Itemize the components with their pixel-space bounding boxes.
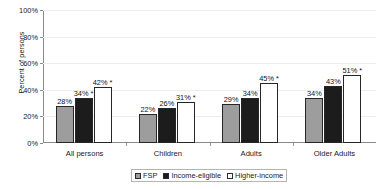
legend-label-fsp: FSP — [143, 171, 157, 180]
legend-swatch-income-eligible — [163, 173, 169, 179]
legend-item-fsp: FSP — [135, 171, 157, 180]
bar-value-label: 42% * — [93, 78, 113, 87]
x-axis-tick-mark — [126, 143, 127, 146]
bar-value-label: 34% * — [74, 89, 94, 98]
y-tick-label: 40% — [23, 85, 38, 94]
legend-label-income-eligible: Income-eligible — [171, 171, 221, 180]
bar-value-label: 45% * — [259, 74, 279, 83]
bar: 26% — [158, 108, 176, 143]
bar: 42% * — [94, 87, 112, 143]
x-axis-tick-mark — [210, 143, 211, 146]
y-tick-mark — [40, 143, 43, 144]
x-axis-category-label: Adults — [241, 149, 262, 158]
bar: 34% — [241, 98, 259, 143]
plot-area: 0%20%40%60%80%100% 28%34% *42% *All pers… — [43, 10, 376, 143]
bar-group: 29%34%45% *Adults — [222, 10, 280, 143]
bar-value-label: 34% — [243, 89, 258, 98]
y-tick-label: 80% — [23, 32, 38, 41]
x-axis-category-label: All persons — [66, 149, 104, 158]
bar-value-label: 29% — [224, 95, 239, 104]
bar: 22% — [139, 114, 157, 143]
bar: 34% * — [75, 98, 93, 143]
legend-item-higher-income: Higher-income — [227, 171, 283, 180]
x-axis-category-label: Children — [154, 149, 182, 158]
x-axis-category-label: Older Adults — [314, 149, 355, 158]
legend-item-income-eligible: Income-eligible — [163, 171, 221, 180]
y-tick-label: 60% — [23, 59, 38, 68]
bar-chart: Percent of persons 0%20%40%60%80%100% 28… — [0, 0, 385, 189]
bar: 51% * — [343, 75, 361, 143]
x-axis-tick-mark — [293, 143, 294, 146]
bar-group: 28%34% *42% *All persons — [56, 10, 114, 143]
legend-swatch-fsp — [135, 173, 141, 179]
bar-value-label: 43% — [326, 77, 341, 86]
bar: 43% — [324, 86, 342, 143]
bar: 29% — [222, 104, 240, 143]
bar-group: 34%43%51% *Older Adults — [305, 10, 363, 143]
y-tick-label: 100% — [19, 6, 38, 15]
legend-swatch-higher-income — [227, 173, 233, 179]
bar: 45% * — [260, 83, 278, 143]
bar-value-label: 51% * — [343, 66, 363, 75]
legend-label-higher-income: Higher-income — [235, 171, 283, 180]
y-tick-mark — [40, 37, 43, 38]
y-axis-line — [43, 10, 44, 143]
bar: 28% — [56, 106, 74, 143]
y-tick-mark — [40, 90, 43, 91]
y-tick-mark — [40, 63, 43, 64]
bar-value-label: 28% — [57, 97, 72, 106]
bar-value-label: 34% — [307, 89, 322, 98]
y-tick-mark — [40, 116, 43, 117]
bar-value-label: 31% * — [176, 93, 196, 102]
y-tick-label: 0% — [27, 139, 38, 148]
y-tick-mark — [40, 10, 43, 11]
bar-value-label: 26% — [159, 99, 174, 108]
bar-group: 22%26%31% *Children — [139, 10, 197, 143]
chart-legend: FSP Income-eligible Higher-income — [131, 169, 287, 182]
y-tick-label: 20% — [23, 112, 38, 121]
bar: 34% — [305, 98, 323, 143]
bar: 31% * — [177, 102, 195, 143]
bar-value-label: 22% — [140, 105, 155, 114]
